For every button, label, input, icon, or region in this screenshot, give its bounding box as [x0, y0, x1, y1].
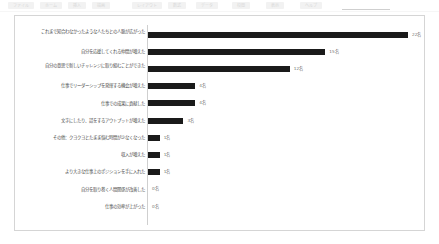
ribbon-tab[interactable]: 描画 [92, 2, 110, 9]
bar-category-label: 収入が増えた [19, 152, 145, 157]
chart-container[interactable]: これまで知合わなかったような人たちとの人脈が広がった22名自分を応援してくれる仲… [14, 15, 425, 231]
bar-value-label: 4名 [199, 83, 206, 89]
bar-category-label: 自分を応援してくれる仲間が増えた [19, 49, 145, 54]
bar-category-label: 自分の意思で新しいチャレンジに取り組むことができた [19, 63, 145, 68]
bar[interactable] [148, 169, 160, 175]
ribbon-tab[interactable]: データ [196, 2, 218, 9]
ribbon-toolbar: ファイルホーム挿入描画レイアウト数式データ校閲表示ヘルプ [0, 0, 439, 13]
ribbon-tab[interactable]: ファイル [8, 2, 34, 9]
bar-row: より大きな仕事上のポジションを手に入れた1名 [15, 164, 424, 181]
bar[interactable] [148, 49, 325, 55]
bar-row: その他：クヨクヨとたまま悩む時間が少なくなった1名 [15, 129, 424, 146]
ribbon-tab[interactable]: ホーム [40, 2, 62, 9]
bar-row: 自分を応援してくれる仲間が増えた15名 [15, 43, 424, 60]
bar[interactable] [148, 66, 290, 72]
bar-category-label: 仕事でリーダーシップを発揮する機会が増えた [19, 83, 145, 88]
bar-value-label: 0名 [152, 186, 159, 192]
bar-value-label: 12名 [294, 66, 303, 72]
ribbon-tab[interactable]: レイアウト [132, 2, 162, 9]
ribbon-tab[interactable]: 挿入 [68, 2, 86, 9]
bar-value-label: 1名 [164, 135, 171, 141]
ribbon-tab[interactable]: 表示 [266, 2, 284, 9]
bar-category-label: 仕事の効率が上がった [19, 204, 145, 209]
bar-row: 文字にしたり、話をするアウトプットが増えた3名 [15, 112, 424, 129]
bar-row: 仕事の効率が上がった0名 [15, 198, 424, 215]
bar-value-label: 3名 [187, 118, 194, 124]
bar-row: 自分を取り巻く人間関係が改善した0名 [15, 181, 424, 198]
ribbon-divider [0, 11, 439, 12]
bar[interactable] [148, 135, 160, 141]
bar-value-label: 0名 [152, 204, 159, 210]
bar-category-label: これまで知合わなかったような人たちとの人脈が広がった [19, 29, 145, 34]
bar-category-label: 仕事での成果に貢献した [19, 101, 145, 106]
bar[interactable] [148, 100, 195, 106]
bar-row: これまで知合わなかったような人たちとの人脈が広がった22名 [15, 26, 424, 43]
bar-row: 収入が増えた1名 [15, 146, 424, 163]
bar[interactable] [148, 152, 160, 158]
bar-value-label: 15名 [329, 49, 338, 55]
ribbon-accent-underline [342, 9, 390, 10]
bar-category-label: 文字にしたり、話をするアウトプットが増えた [19, 118, 145, 123]
bar-row: 自分の意思で新しいチャレンジに取り組むことができた12名 [15, 60, 424, 77]
bar-value-label: 1名 [164, 169, 171, 175]
bar-category-label: より大きな仕事上のポジションを手に入れた [19, 169, 145, 174]
bar[interactable] [148, 83, 195, 89]
bar[interactable] [148, 118, 183, 124]
bar-chart-plot-area: これまで知合わなかったような人たちとの人脈が広がった22名自分を応援してくれる仲… [15, 16, 424, 230]
ribbon-tab[interactable]: 数式 [168, 2, 186, 9]
ribbon-tab[interactable]: 校閲 [232, 2, 250, 9]
bar-category-label: 自分を取り巻く人間関係が改善した [19, 187, 145, 192]
bar-row: 仕事でリーダーシップを発揮する機会が増えた4名 [15, 78, 424, 95]
ribbon-tab[interactable]: ヘルプ [300, 2, 322, 9]
bar-value-label: 22名 [412, 32, 421, 38]
bar-value-label: 1名 [164, 152, 171, 158]
bar[interactable] [148, 32, 408, 38]
bar-value-label: 4名 [199, 100, 206, 106]
bar-row: 仕事での成果に貢献した4名 [15, 95, 424, 112]
bar-category-label: その他：クヨクヨとたまま悩む時間が少なくなった [19, 135, 145, 140]
